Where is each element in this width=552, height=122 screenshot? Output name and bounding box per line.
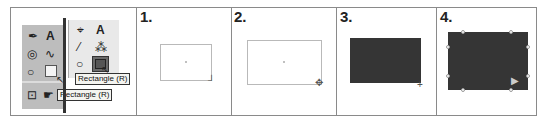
crosshair-cursor-icon: ┘ — [208, 76, 215, 86]
crosshair-cursor-icon: + — [417, 80, 423, 90]
rectangle-tooltip-right: Rectangle (R) — [75, 73, 130, 85]
selection-handle[interactable] — [461, 88, 465, 92]
panel-divider — [436, 7, 437, 116]
selection-handle[interactable] — [461, 30, 465, 34]
direct-select-tool-icon[interactable]: ⌖ — [77, 24, 84, 36]
selection-handle[interactable] — [446, 74, 450, 78]
type-tool-icon[interactable]: A — [96, 24, 105, 36]
spiral-tool-icon[interactable]: ◎ — [27, 48, 37, 60]
selection-handle[interactable] — [446, 45, 450, 49]
step-label: 4. — [440, 8, 453, 25]
center-point — [283, 61, 285, 63]
selection-handle[interactable] — [509, 30, 513, 34]
warp-tool-icon[interactable]: ☛ — [43, 89, 54, 101]
panel-divider — [336, 7, 337, 116]
ellipse-tool-icon[interactable]: ○ — [76, 58, 83, 70]
cursor-arrow-icon: ▶ — [511, 76, 519, 86]
panel-divider — [136, 7, 137, 116]
selection-handle[interactable] — [526, 45, 530, 49]
free-transform-tool-icon[interactable]: ⊡ — [27, 89, 37, 101]
ellipse-tool-icon[interactable]: ○ — [27, 66, 34, 78]
pencil-tool-icon[interactable]: ∿ — [45, 48, 55, 60]
center-point — [185, 61, 187, 63]
blob-tool-icon[interactable]: ⁂ — [95, 41, 107, 53]
panel-divider — [231, 7, 232, 116]
filled-rectangle — [350, 38, 421, 83]
step-label: 2. — [234, 8, 247, 25]
type-tool-icon[interactable]: A — [46, 30, 55, 42]
selection-handle[interactable] — [509, 88, 513, 92]
line-tool-icon[interactable]: ⁄ — [78, 41, 80, 53]
selection-handle[interactable] — [526, 74, 530, 78]
toolbox-divider-bar — [63, 18, 66, 113]
crosshair-cursor-icon: ✥ — [315, 78, 323, 88]
pen-tool-icon[interactable]: ✒ — [28, 30, 38, 42]
step-label: 1. — [140, 8, 153, 25]
step-label: 3. — [340, 8, 353, 25]
